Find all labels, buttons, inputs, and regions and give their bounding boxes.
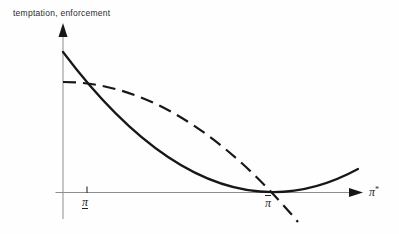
x-axis-label-star: * (375, 185, 379, 194)
x-axis-arrowhead (349, 188, 363, 197)
figure-canvas: temptation, enforcement π π π* (0, 0, 399, 234)
y-axis-title: temptation, enforcement (13, 8, 110, 18)
plot-svg (0, 0, 399, 234)
temptation-curve (63, 52, 358, 192)
y-axis-arrowhead (59, 23, 68, 37)
x-axis-label: π* (369, 186, 379, 198)
pi-upper-bound-label: π (265, 197, 271, 209)
pi-lower-bound-label: π (82, 196, 88, 208)
enforcement-curve (63, 82, 298, 222)
